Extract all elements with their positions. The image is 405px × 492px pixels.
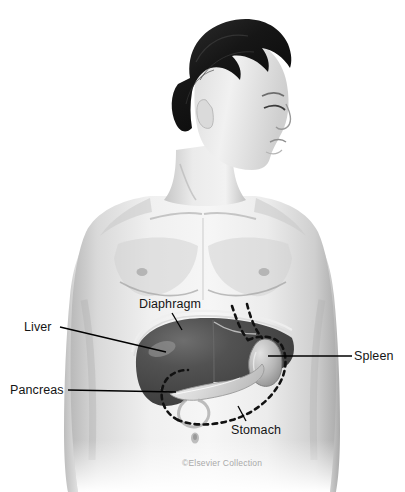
copyright-credit: ©Elsevier Collection <box>182 458 262 468</box>
label-liver: Liver <box>24 320 52 334</box>
label-pancreas: Pancreas <box>10 383 64 397</box>
anatomy-figure: Liver Pancreas Diaphragm Spleen Stomach … <box>0 0 405 492</box>
label-spleen: Spleen <box>354 349 394 363</box>
label-diaphragm: Diaphragm <box>139 297 201 311</box>
label-stomach: Stomach <box>231 423 281 437</box>
illustration-canvas <box>0 0 405 492</box>
